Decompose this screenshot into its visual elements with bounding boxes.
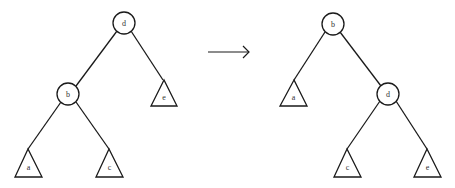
tree-rotation-diagram: d b a c e [0,0,455,188]
subtree-label: e [426,163,430,172]
tree-before: d b a c e [15,12,177,177]
tree-after: b d a c e [280,13,441,177]
subtree-a: a [280,80,307,106]
subtree-label: c [108,163,112,172]
subtree-a: a [15,149,42,177]
node-label: b [331,20,335,29]
node-b: b [322,13,344,35]
subtree-label: e [162,93,166,102]
node-label: d [386,90,390,99]
edge-d-b [76,31,117,86]
node-label: d [122,19,126,28]
node-b: b [57,83,79,105]
node-d: d [113,12,135,34]
subtree-e: e [151,80,177,106]
subtree-c: c [334,149,361,177]
subtree-label: a [292,93,296,102]
subtree-label: c [346,163,350,172]
node-label: b [66,90,70,99]
edge-d-e [131,31,163,80]
subtree-c: c [96,149,123,177]
transform-arrow [208,46,249,58]
edge-b-a [28,102,61,149]
subtree-e: e [414,149,441,177]
subtree-label: a [27,163,31,172]
edge-b-a [294,32,325,80]
edge-b-c [76,102,109,149]
node-d: d [377,83,399,105]
edge-d-c [347,101,380,149]
edge-d-e [396,101,427,149]
edge-b-d [340,32,381,86]
